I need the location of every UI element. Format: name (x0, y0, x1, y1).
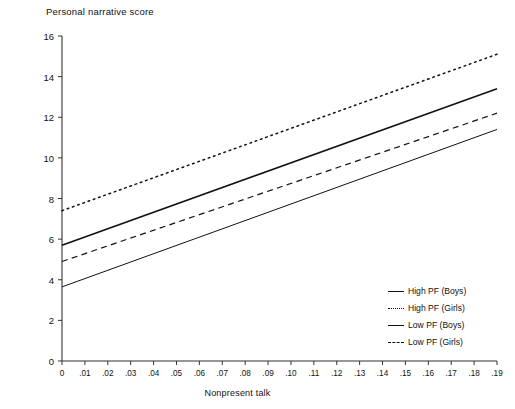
legend-swatch-solid (388, 291, 404, 292)
x-tick-label: .06 (194, 369, 205, 378)
x-tick-label: .02 (102, 369, 113, 378)
x-axis-title: Nonpresent talk (0, 388, 515, 398)
y-tick-label: 10 (28, 152, 54, 163)
x-tick-marks (62, 361, 497, 365)
x-tick-label: .14 (377, 369, 388, 378)
x-tick-label: .19 (491, 369, 502, 378)
series-line (62, 89, 497, 245)
x-tick-label: .11 (308, 369, 319, 378)
series-lines (62, 54, 497, 287)
legend-label: High PF (Boys) (408, 287, 466, 296)
legend-label: High PF (Girls) (408, 304, 465, 313)
x-tick-label: .16 (423, 369, 434, 378)
x-tick-label: .13 (354, 369, 365, 378)
x-tick-label: .12 (331, 369, 342, 378)
y-tick-marks (58, 36, 62, 361)
x-tick-label: .08 (239, 369, 250, 378)
x-axis-title-text: Nonpresent talk (204, 388, 270, 398)
y-tick-label: 4 (28, 274, 54, 285)
legend-label: Low PF (Boys) (408, 321, 464, 330)
x-tick-label: .03 (125, 369, 136, 378)
x-tick-label: .17 (446, 369, 457, 378)
y-tick-label: 16 (28, 31, 54, 42)
x-tick-label: .07 (217, 369, 228, 378)
chart-figure: Personal narrative score 0246810121416 0… (0, 0, 515, 409)
legend-item: Low PF (Boys) (388, 317, 515, 334)
y-tick-label: 0 (28, 356, 54, 367)
legend-label: Low PF (Girls) (408, 338, 463, 347)
legend-item: High PF (Boys) (388, 283, 515, 300)
x-tick-label: .09 (262, 369, 273, 378)
chart-legend: High PF (Boys)High PF (Girls)Low PF (Boy… (388, 283, 515, 351)
legend-swatch-solid (388, 325, 404, 326)
x-tick-label: .10 (285, 369, 296, 378)
x-tick-label: .01 (79, 369, 90, 378)
y-tick-label: 8 (28, 193, 54, 204)
legend-swatch-dotted (388, 308, 404, 309)
x-tick-label: .04 (148, 369, 159, 378)
y-tick-label: 2 (28, 315, 54, 326)
legend-swatch-dashed (388, 342, 404, 343)
y-tick-label: 14 (28, 71, 54, 82)
legend-item: High PF (Girls) (388, 300, 515, 317)
y-tick-label: 12 (28, 112, 54, 123)
legend-item: Low PF (Girls) (388, 334, 515, 351)
x-tick-label: .15 (400, 369, 411, 378)
x-tick-label: .18 (468, 369, 479, 378)
x-tick-label: 0 (60, 369, 65, 378)
y-tick-label: 6 (28, 234, 54, 245)
x-tick-label: .05 (171, 369, 182, 378)
series-line (62, 129, 497, 286)
series-line (62, 113, 497, 261)
